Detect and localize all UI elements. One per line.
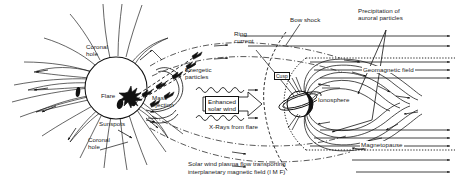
label-magnetopause: Magnetopause [360, 141, 404, 148]
label-ionosphere: Ionosphere [317, 96, 350, 103]
label-coronal-hole-bottom: Coronal hole [88, 136, 110, 151]
label-mass-ejection: Mass ejection [152, 94, 174, 109]
label-geomagnetic-field: Geomagnetic field [362, 66, 415, 73]
label-xrays-from-flare: X-Rays from flare [209, 123, 258, 130]
label-ring-current: Ring current [234, 30, 254, 45]
label-sunspots: Sunspots [99, 120, 125, 127]
label-flare: Flare [101, 92, 115, 99]
label-cusp: Cusp [274, 72, 290, 80]
diagram-canvas [0, 0, 455, 187]
bow-shock-curve [264, 32, 288, 172]
auroral-precipitation-lines [332, 30, 386, 132]
label-coronal-hole-top: Coronal hole [86, 43, 108, 58]
label-bow-shock: Bow shock [290, 16, 320, 23]
label-energetic-particles: Energetic particles [185, 66, 212, 81]
space-weather-diagram: Coronal hole Coronal hole Flare Sunspots… [0, 0, 455, 187]
label-enhanced-solar-wind: Enhanced solar wind [205, 96, 239, 114]
label-precipitation-auroral-particles: Precipitation of auroral particles [358, 7, 403, 22]
sun-disc [85, 57, 147, 119]
figure-caption: Solar wind plasma flow transporting inte… [188, 160, 286, 176]
magnetotail-field-lines [240, 36, 450, 172]
